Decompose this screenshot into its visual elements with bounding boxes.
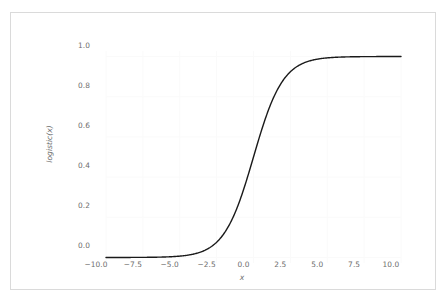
logistic-curve xyxy=(106,51,401,263)
x-tick-label: −7.5 xyxy=(124,260,142,269)
x-tick-label: −2.5 xyxy=(197,260,215,269)
x-tick-label: −5.0 xyxy=(161,260,179,269)
plot-area xyxy=(106,51,401,263)
y-tick-label: 0.6 xyxy=(60,120,90,129)
y-axis-title: logistic(x) xyxy=(45,125,54,162)
x-tick-label: 7.5 xyxy=(348,260,360,269)
x-tick-label: 2.5 xyxy=(274,260,286,269)
x-tick-label: 10.0 xyxy=(383,260,400,269)
y-tick-label: 0.2 xyxy=(60,201,90,210)
x-axis-title: x xyxy=(240,273,245,282)
y-tick-label: 0.8 xyxy=(60,80,90,89)
x-tick-label: 0.0 xyxy=(237,260,249,269)
y-tick-label: 0.4 xyxy=(60,161,90,170)
x-tick-label: 5.0 xyxy=(311,260,323,269)
figure-frame: 0.00.20.40.60.81.0 −10.0−7.5−5.0−2.50.02… xyxy=(10,12,436,290)
logistic-function-chart-figure: 0.00.20.40.60.81.0 −10.0−7.5−5.0−2.50.02… xyxy=(0,0,446,302)
y-tick-label: 1.0 xyxy=(60,40,90,49)
x-tick-label: −10.0 xyxy=(84,260,107,269)
y-tick-label: 0.0 xyxy=(60,241,90,250)
